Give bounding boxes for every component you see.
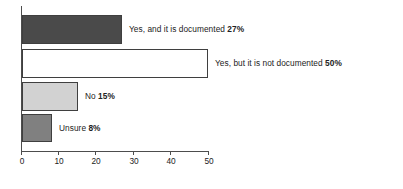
bar-yes-but-it-is-not-documented bbox=[22, 49, 208, 78]
x-axis-tick bbox=[21, 151, 22, 155]
x-axis-tick bbox=[208, 151, 209, 155]
bar-chart: Yes, and it is documented 27% Yes, but i… bbox=[0, 0, 403, 189]
bar-row: Yes, but it is not documented 50% bbox=[22, 49, 342, 78]
bar-category-text: Unsure bbox=[59, 123, 86, 133]
bar-value-text: 15% bbox=[98, 91, 115, 101]
bar-unsure bbox=[22, 114, 52, 142]
bar-value-text: 50% bbox=[325, 58, 342, 68]
x-axis-tick bbox=[133, 151, 134, 155]
bar-label-yes-but-it-is-not-documented: Yes, but it is not documented 50% bbox=[215, 59, 342, 67]
x-axis-tick-label: 40 bbox=[166, 157, 175, 165]
bar-label-unsure: Unsure 8% bbox=[59, 124, 101, 132]
x-axis-tick bbox=[58, 151, 59, 155]
bar-category-text: Yes, and it is documented bbox=[129, 24, 225, 34]
x-axis-line bbox=[21, 151, 209, 152]
bar-category-text: Yes, but it is not documented bbox=[215, 58, 323, 68]
x-axis-tick bbox=[95, 151, 96, 155]
bar-category-text: No bbox=[85, 91, 96, 101]
bar-value-text: 8% bbox=[88, 123, 100, 133]
bar-row: Yes, and it is documented 27% bbox=[22, 15, 244, 44]
bar-row: No 15% bbox=[22, 82, 115, 111]
bar-value-text: 27% bbox=[227, 24, 244, 34]
bar-label-no: No 15% bbox=[85, 92, 115, 100]
x-axis-tick-label: 10 bbox=[54, 157, 63, 165]
x-axis-tick bbox=[170, 151, 171, 155]
x-axis-tick-label: 50 bbox=[204, 157, 213, 165]
bar-no bbox=[22, 82, 78, 111]
x-axis-tick-label: 20 bbox=[91, 157, 100, 165]
bar-yes-and-it-is-documented bbox=[22, 15, 122, 44]
x-axis-tick-label: 30 bbox=[129, 157, 138, 165]
bar-row: Unsure 8% bbox=[22, 114, 101, 142]
x-axis-tick-label: 0 bbox=[20, 157, 25, 165]
plot-area: Yes, and it is documented 27% Yes, but i… bbox=[0, 0, 403, 189]
bar-label-yes-and-it-is-documented: Yes, and it is documented 27% bbox=[129, 25, 244, 33]
